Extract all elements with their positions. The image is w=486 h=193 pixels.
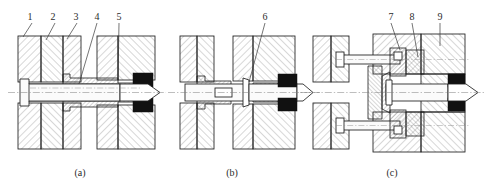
callout-label-3: 3 (74, 11, 79, 22)
insert-detail-upper (394, 52, 402, 60)
callout-label-1: 1 (28, 11, 33, 22)
plate-b-left-inner-lower (197, 103, 214, 149)
plate-b-right-a-lower (233, 104, 253, 149)
plate-b-left-outer-upper (180, 36, 197, 82)
plate-b-left-inner-upper (197, 36, 214, 82)
plate-c-left-outer-upper (313, 36, 331, 82)
plate-1-upper (18, 36, 41, 82)
callout-label-6: 6 (263, 11, 268, 22)
plate-b-right-a-upper (233, 36, 253, 81)
callout-label-7: 7 (389, 11, 394, 22)
callout-label-4: 4 (95, 11, 100, 22)
plate-c-left-outer-lower (313, 103, 331, 149)
plate-c-right-upper (421, 34, 465, 74)
panel-caption-c: (c) (386, 167, 397, 179)
insert-detail-lower (394, 126, 402, 134)
plate-c-right-lower (421, 112, 465, 152)
figure-root: 1 2 3 4 5 6 7 8 9 (a) (b) (c) (0, 0, 486, 193)
plate-1-lower (18, 103, 41, 149)
insert-8-upper (406, 50, 424, 74)
insert-8-lower (406, 112, 424, 136)
panel-caption-a: (a) (74, 167, 85, 179)
plate-2-upper (41, 36, 63, 82)
callout-label-5: 5 (117, 11, 122, 22)
plate-2-lower (41, 103, 63, 149)
seal-b-upper (278, 74, 297, 87)
plate-5a-upper (97, 36, 118, 80)
technical-drawing-svg: 1 2 3 4 5 6 7 8 9 (a) (b) (c) (0, 0, 486, 193)
callout-label-8: 8 (410, 11, 415, 22)
callout-label-9: 9 (438, 11, 443, 22)
seal-b-lower (278, 98, 297, 111)
plate-b-left-outer-lower (180, 103, 197, 149)
callout-label-2: 2 (51, 11, 56, 22)
plate-5a-lower (97, 105, 118, 149)
panel-caption-b: (b) (226, 167, 238, 179)
